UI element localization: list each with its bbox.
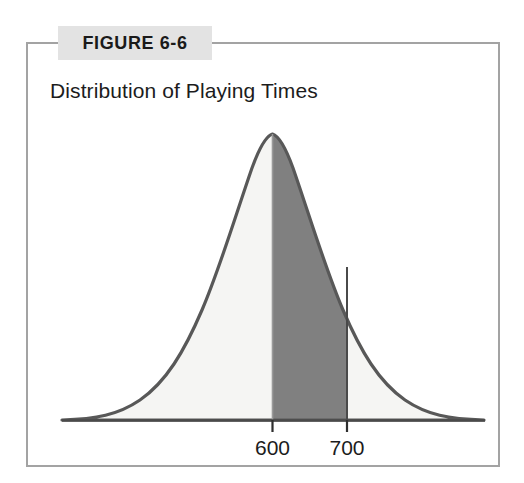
figure-number-label: FIGURE 6-6 xyxy=(82,33,187,54)
normal-distribution-plot: 600 700 xyxy=(0,0,524,483)
figure-container: FIGURE 6-6 Distribution of Playing Times xyxy=(0,0,524,483)
x-tick-label-700: 700 xyxy=(329,436,364,459)
figure-number-chip: FIGURE 6-6 xyxy=(58,26,212,60)
x-tick-label-600: 600 xyxy=(255,436,290,459)
